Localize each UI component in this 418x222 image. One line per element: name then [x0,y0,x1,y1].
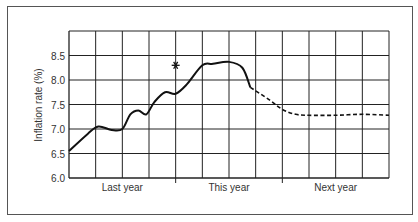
x-group-label: Last year [102,182,144,193]
x-axis: Last yearThis yearNext year [102,182,358,193]
y-axis: 6.06.57.07.58.08.5 [51,51,65,185]
y-axis-title: Inflation rate (%) [33,68,44,141]
x-group-label: Next year [314,182,357,193]
actual-line [69,62,250,151]
forecast-line [250,87,389,115]
y-tick-label: 6.0 [51,173,65,184]
x-group-label: This year [208,182,250,193]
y-tick-label: 7.5 [51,100,65,111]
y-tick-label: 6.5 [51,149,65,160]
inflation-line-chart: 6.06.57.07.58.08.5 Last yearThis yearNex… [0,0,418,222]
grid [69,31,389,183]
y-tick-label: 8.5 [51,51,65,62]
y-tick-label: 8.0 [51,75,65,86]
y-tick-label: 7.0 [51,124,65,135]
